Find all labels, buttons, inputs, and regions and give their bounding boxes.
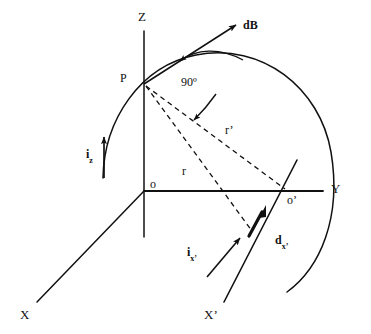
- axis-label-y: Y: [331, 182, 340, 195]
- rprime-dashed-line: [146, 86, 285, 189]
- axis-label-x: X: [20, 308, 29, 321]
- point-label-p: P: [120, 72, 127, 84]
- dxprime-vector-symbol: d: [275, 233, 282, 247]
- x-axis-line: [37, 191, 144, 302]
- r-dashed-line: [146, 86, 252, 231]
- ixprime-current-arrow: [207, 238, 240, 277]
- dxprime-vector-label: dx’: [275, 234, 288, 249]
- db-vector-label: dB: [243, 19, 258, 31]
- diagram-canvas: Z Y X X’ P o o’ dB iz ix’ dx’ r r’ 90º: [0, 0, 371, 334]
- right-angle-label: 90º: [181, 76, 197, 88]
- iz-vector-label: iz: [86, 148, 93, 163]
- point-label-origin: o: [150, 178, 156, 190]
- sphere-arc: [103, 53, 334, 292]
- right-angle-leader-lower: [194, 94, 216, 120]
- ixprime-vector-subscript: x’: [190, 254, 197, 263]
- iz-vector-subscript: z: [89, 156, 93, 165]
- axis-label-z: Z: [138, 10, 146, 23]
- point-label-origin-prime: o’: [287, 194, 297, 206]
- ixprime-vector-label: ix’: [187, 246, 197, 261]
- distance-label-r-prime: r’: [225, 124, 233, 136]
- dxprime-vector-subscript: x’: [282, 242, 289, 251]
- axis-label-xprime: X’: [204, 308, 218, 321]
- xprime-axis-line: [224, 160, 297, 302]
- distance-label-r: r: [182, 165, 186, 177]
